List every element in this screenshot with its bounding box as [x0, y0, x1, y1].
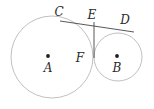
geometry-figure: C E D F A B [0, 0, 154, 109]
label-b: B [112, 61, 122, 75]
point-a-dot [46, 54, 50, 58]
label-d: D [119, 13, 130, 27]
label-f: F [75, 51, 85, 65]
geometry-canvas: C E D F A B [0, 0, 154, 109]
label-c: C [54, 5, 63, 19]
label-e: E [87, 8, 97, 22]
point-b-dot [115, 54, 119, 58]
label-a: A [43, 61, 53, 75]
